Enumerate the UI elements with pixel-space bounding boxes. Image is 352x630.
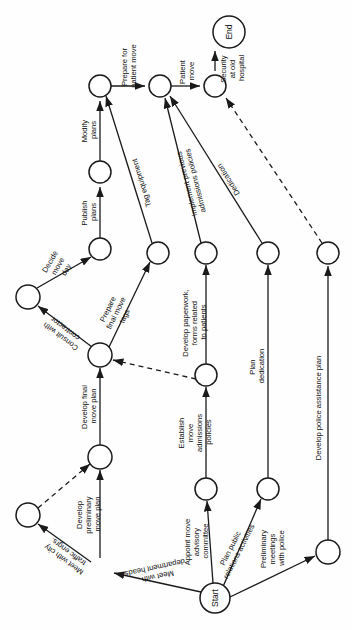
network-diagram-svg: End Start Security at old hospital Patie… xyxy=(0,0,352,630)
node-label-end: End xyxy=(224,24,234,39)
node-layer xyxy=(16,16,340,613)
edge-tag-equipment xyxy=(106,96,152,243)
label-consult-with-contractor: Consult with contractor xyxy=(40,312,86,353)
label-develop-final-move-plan: Develop final move plan xyxy=(80,383,98,429)
label-decide-move-day: Decide move day xyxy=(40,247,76,283)
node-n13[interactable] xyxy=(88,445,112,469)
label-prepare-for-patient-move: Prepare for patient move xyxy=(120,44,138,87)
label-patient-move: Patient move xyxy=(178,58,196,84)
label-plan-dedication: Plan dedication xyxy=(248,349,266,384)
label-security-at-old-hospital: Security at old hospital xyxy=(219,53,246,83)
label-prepare-final-move-tags: Prepare final move tags xyxy=(96,290,136,335)
label-establish-move-admissions-policies: Establish move admissions policies xyxy=(177,412,213,452)
label-appoint-move-advisory-committee: Appoint move advisory committee xyxy=(183,517,210,566)
label-publish-plans: Publish plans xyxy=(80,198,98,225)
node-n16[interactable] xyxy=(257,478,279,500)
node-n15[interactable] xyxy=(195,478,217,500)
node-n10[interactable] xyxy=(16,285,40,309)
node-n12[interactable] xyxy=(195,364,217,386)
dummy-edge-paperwork-to-final-plan xyxy=(113,360,196,379)
label-develop-preliminary-move-plan: Develop preliminary move plan xyxy=(75,494,102,533)
label-meet-with-department-heads: Meet with department heads xyxy=(124,557,188,587)
activity-label-layer: Security at old hospital Patient move Pr… xyxy=(40,44,323,587)
node-n9[interactable] xyxy=(317,242,339,264)
node-n8[interactable] xyxy=(257,242,279,264)
node-n2[interactable] xyxy=(149,75,171,97)
label-modify-plans: Modify plans xyxy=(80,118,98,143)
label-preliminary-meetings-with-police: Preliminary meetings with police xyxy=(259,528,286,568)
label-plan-public-relations-activities: Plan public relations activities xyxy=(213,518,256,580)
node-label-layer: End Start xyxy=(210,24,234,607)
node-label-start: Start xyxy=(210,588,220,607)
node-n5[interactable] xyxy=(89,238,111,260)
node-n7[interactable] xyxy=(195,242,217,264)
label-develop-paperwork-forms-related-to-patients: Develop paperwork, forms related to pati… xyxy=(181,287,208,357)
node-n6[interactable] xyxy=(147,242,169,264)
label-develop-police-assistance-plan: Develop police assistance plan xyxy=(314,356,323,460)
node-n14[interactable] xyxy=(16,503,40,527)
label-dedication: Dedication xyxy=(215,162,242,197)
label-implement-previous-admissions-policies: Implement previous admissions policies xyxy=(173,147,207,218)
node-n17[interactable] xyxy=(316,540,340,564)
dummy-edge-police-to-security xyxy=(226,98,322,243)
network-diagram-canvas: End Start Security at old hospital Patie… xyxy=(0,0,352,630)
node-n11[interactable] xyxy=(88,343,112,367)
node-n3[interactable] xyxy=(89,75,111,97)
node-n4[interactable] xyxy=(89,161,111,183)
